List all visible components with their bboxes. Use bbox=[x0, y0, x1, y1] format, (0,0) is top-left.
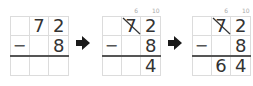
grid-cell bbox=[49, 56, 69, 76]
digit: 8 bbox=[235, 37, 246, 55]
digit: 4 bbox=[235, 57, 246, 75]
grid-cell bbox=[10, 56, 30, 76]
grid-cell bbox=[122, 56, 142, 76]
grid-cell: − bbox=[102, 36, 122, 56]
right-arrow-icon bbox=[76, 36, 90, 50]
grid-cell: 8 bbox=[231, 36, 251, 56]
digit: 8 bbox=[145, 37, 156, 55]
subtraction-grid-step-2: 72−84610 bbox=[102, 16, 161, 76]
grid-cell: 8 bbox=[141, 36, 161, 56]
grid-cell bbox=[192, 56, 212, 76]
grid-cell: 6 bbox=[212, 56, 232, 76]
grid-cell: 7 bbox=[122, 16, 142, 36]
borrow-tens-label: 6 bbox=[134, 8, 138, 14]
grid-cell bbox=[102, 16, 122, 36]
borrow-tens-label: 6 bbox=[224, 8, 228, 14]
minus-sign: − bbox=[105, 38, 118, 54]
grid-cell: 2 bbox=[49, 16, 69, 36]
grid-cell: − bbox=[10, 36, 30, 56]
digit: 7 bbox=[125, 17, 136, 35]
subtraction-grid-step-1: 72−8 bbox=[10, 16, 69, 76]
grid-cell: − bbox=[192, 36, 212, 56]
digit: 2 bbox=[235, 17, 246, 35]
grid-cell: 4 bbox=[231, 56, 251, 76]
grid-cell: 7 bbox=[212, 16, 232, 36]
grid-cell bbox=[192, 16, 212, 36]
answer-rule bbox=[102, 55, 161, 57]
digit: 7 bbox=[33, 17, 44, 35]
grid-cell bbox=[10, 16, 30, 36]
digit: 7 bbox=[215, 17, 226, 35]
digit: 6 bbox=[215, 57, 226, 75]
grid-cell bbox=[122, 36, 142, 56]
subtraction-grid-step-3: 72−864610 bbox=[192, 16, 251, 76]
digit: 8 bbox=[53, 37, 64, 55]
digit: 2 bbox=[53, 17, 64, 35]
grid-cell: 2 bbox=[231, 16, 251, 36]
grid-cell: 7 bbox=[30, 16, 50, 36]
answer-rule bbox=[192, 55, 251, 57]
borrow-ones-label: 10 bbox=[242, 8, 250, 14]
digit: 4 bbox=[145, 57, 156, 75]
minus-sign: − bbox=[13, 38, 26, 54]
grid-cell bbox=[212, 36, 232, 56]
answer-rule bbox=[10, 55, 69, 57]
grid-cell: 4 bbox=[141, 56, 161, 76]
digit: 2 bbox=[145, 17, 156, 35]
grid-cell: 2 bbox=[141, 16, 161, 36]
grid-cell: 8 bbox=[49, 36, 69, 56]
minus-sign: − bbox=[195, 38, 208, 54]
grid-cell bbox=[30, 36, 50, 56]
right-arrow-icon bbox=[168, 36, 182, 50]
borrow-ones-label: 10 bbox=[152, 8, 160, 14]
grid-cell bbox=[30, 56, 50, 76]
grid-cell bbox=[102, 56, 122, 76]
